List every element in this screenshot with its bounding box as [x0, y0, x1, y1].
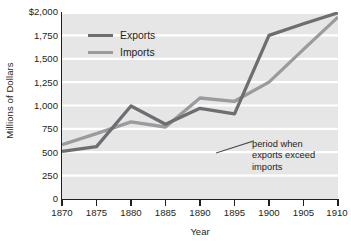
x-tick-mark	[130, 200, 131, 206]
x-tick-label: 1890	[189, 208, 210, 218]
x-tick-label: 1910	[326, 208, 347, 218]
x-tick-mark	[268, 200, 269, 206]
x-tick-mark	[165, 200, 166, 206]
x-tick-mark	[337, 200, 338, 206]
y-tick-label: 750	[14, 124, 58, 134]
legend-swatch-exports	[88, 34, 113, 37]
y-tick-label: 500	[14, 148, 58, 158]
legend-swatch-imports	[88, 51, 113, 54]
legend-label-imports: Imports	[120, 47, 155, 58]
y-tick-label: 1,250	[14, 78, 58, 88]
y-tick-label: 1,000	[14, 101, 58, 111]
x-tick-label: 1880	[120, 208, 141, 218]
x-tick-label: 1905	[293, 208, 314, 218]
x-axis-title: Year	[62, 226, 338, 237]
x-tick-mark	[303, 200, 304, 206]
x-tick-label: 1875	[86, 208, 107, 218]
chart-figure: Millions of Dollars $2,000 1,750 1,500 1…	[0, 0, 351, 246]
x-tick-label: 1870	[51, 208, 72, 218]
chart-annotation: period when exports exceed imports	[252, 139, 344, 173]
y-tick-label: 0	[14, 194, 58, 204]
legend-label-exports: Exports	[120, 30, 155, 41]
y-tick-label: $2,000	[14, 7, 58, 17]
x-tick-mark	[234, 200, 235, 206]
x-tick-label: 1885	[155, 208, 176, 218]
annotation-line-3: imports	[252, 162, 344, 173]
y-axis-line	[61, 12, 62, 200]
chart-legend: Exports Imports	[88, 27, 208, 61]
y-tick-label: 250	[14, 171, 58, 181]
y-tick-label: 1,500	[14, 54, 58, 64]
x-tick-mark	[199, 200, 200, 206]
y-tick-label: 1,750	[14, 31, 58, 41]
x-tick-mark	[96, 200, 97, 206]
legend-item-exports: Exports	[88, 27, 208, 44]
x-tick-label: 1900	[258, 208, 279, 218]
x-tick-mark	[61, 200, 62, 206]
legend-item-imports: Imports	[88, 44, 208, 61]
annotation-line-2: exports exceed	[252, 150, 344, 161]
annotation-line-1: period when	[252, 139, 344, 150]
x-tick-label: 1895	[224, 208, 245, 218]
